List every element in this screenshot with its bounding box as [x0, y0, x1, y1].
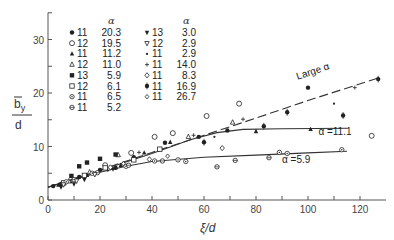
- marker-filled-square: [77, 164, 81, 168]
- legend-entry-label: 12: [77, 59, 89, 70]
- marker-filled-star: [341, 112, 345, 119]
- marker-filled-star: [285, 109, 289, 116]
- marker-small-dot: [107, 169, 109, 171]
- marker-filled-triangle: [168, 140, 172, 144]
- marker-filled-down-triangle: [145, 31, 149, 35]
- legend-entry-alpha: 8.3: [182, 70, 196, 81]
- marker-open-circle: [237, 101, 242, 106]
- legend-entry-alpha: 20.3: [102, 27, 122, 38]
- marker-plus: [145, 63, 149, 67]
- marker-filled-circle: [225, 128, 229, 132]
- marker-circle-bar: [267, 156, 271, 160]
- marker-open-square: [103, 166, 107, 170]
- marker-circle-bar: [160, 159, 164, 163]
- marker-filled-down-triangle: [72, 182, 76, 186]
- marker-open-circle: [129, 150, 134, 155]
- marker-open-down-triangle: [93, 173, 97, 177]
- marker-circle-bar: [70, 105, 74, 109]
- legend-entry-alpha: 11.2: [102, 48, 121, 59]
- marker-open-circle: [170, 131, 175, 136]
- legend-entry-alpha: 3.0: [182, 27, 196, 38]
- marker-plus: [241, 117, 245, 121]
- legend-alpha-header: α: [108, 15, 115, 26]
- marker-open-circle: [152, 134, 157, 139]
- legend-entry-label: 12: [152, 38, 164, 49]
- marker-circle-bar: [126, 163, 130, 167]
- marker-open-circle: [204, 114, 209, 119]
- x-tick-label: 20: [94, 204, 106, 215]
- chart: 0204060801001200102030 α1120.31219.51111…: [0, 0, 394, 240]
- marker-filled-square: [70, 73, 74, 77]
- y-tick-label: 30: [33, 35, 45, 46]
- marker-filled-circle: [77, 175, 81, 179]
- marker-filled-circle: [163, 141, 167, 145]
- legend-alpha-header: α: [183, 15, 190, 26]
- legend-entry-alpha: 5.9: [107, 70, 121, 81]
- marker-filled-square: [85, 160, 89, 164]
- legend-entry-label: 12: [77, 38, 89, 49]
- marker-open-square: [158, 147, 162, 151]
- annotation-large-: Large α: [295, 60, 331, 81]
- marker-small-dot: [70, 181, 72, 183]
- annotation--11-1: α =11.1: [318, 126, 352, 137]
- marker-filled-star: [376, 76, 380, 83]
- marker-circle-dot: [152, 159, 156, 163]
- marker-circle-dot: [176, 158, 180, 162]
- legend-entry-label: 12: [77, 81, 89, 92]
- legend-entry-alpha: 11.0: [102, 59, 121, 70]
- legend-entry-label: 11: [152, 70, 163, 81]
- marker-open-diamond-small: [166, 154, 170, 158]
- marker-open-down-triangle: [145, 42, 149, 46]
- marker-filled-circle: [306, 85, 310, 89]
- marker-open-triangle: [230, 120, 234, 124]
- marker-small-dot: [146, 53, 148, 55]
- legend-entry-alpha: 2.9: [182, 48, 196, 59]
- y-axis-title: by d: [12, 97, 32, 132]
- marker-filled-circle: [51, 184, 55, 188]
- marker-filled-star: [145, 83, 149, 90]
- marker-circle-dot: [184, 159, 188, 163]
- marker-small-dot: [333, 103, 335, 105]
- marker-plus: [353, 86, 357, 90]
- marker-open-circle: [369, 133, 374, 138]
- marker-open-square: [132, 158, 136, 162]
- marker-open-square: [82, 173, 86, 177]
- marker-filled-square: [98, 157, 102, 161]
- legend-entry-label: 11: [152, 59, 163, 70]
- legend-entry-alpha: 6.5: [107, 91, 121, 102]
- marker-open-square: [70, 84, 74, 88]
- x-tick-label: 80: [250, 204, 262, 215]
- marker-open-diamond: [145, 73, 149, 78]
- marker-filled-star: [202, 139, 206, 146]
- marker-circle-bar: [215, 165, 219, 169]
- legend-entry-label: 11: [77, 48, 88, 59]
- y-tick-label: 10: [33, 142, 45, 153]
- legend-entry-alpha: 19.5: [102, 38, 122, 49]
- legend-entry-label: 11: [77, 91, 88, 102]
- marker-small-dot: [213, 136, 215, 138]
- legend-entry-alpha: 16.9: [177, 81, 197, 92]
- marker-filled-circle: [70, 30, 74, 34]
- legend-entry-label: 11: [77, 27, 88, 38]
- y-tick-label: 20: [33, 88, 45, 99]
- y-tick-label: 0: [38, 195, 44, 206]
- marker-open-circle: [70, 41, 75, 46]
- annotation--5-9: α =5.9: [282, 154, 311, 165]
- legend-entry-label: 11: [152, 91, 163, 102]
- marker-open-diamond: [220, 146, 224, 151]
- x-tick-label: 40: [146, 204, 158, 215]
- marker-circle-dot: [277, 150, 281, 154]
- legend-entry-alpha: 2.9: [182, 38, 196, 49]
- x-tick-label: 100: [300, 204, 317, 215]
- legend-entry-alpha: 6.1: [107, 81, 121, 92]
- marker-filled-triangle: [70, 51, 74, 55]
- legend: α1120.31219.51111.21211.0135.9126.1116.5…: [70, 15, 197, 113]
- y-axis-label-numerator: by: [14, 97, 26, 113]
- legend-entry-label: 11: [77, 102, 88, 113]
- legend-entry-label: 13: [77, 70, 89, 81]
- legend-entry-alpha: 5.2: [107, 102, 121, 113]
- marker-open-triangle: [186, 134, 190, 138]
- legend-entry-alpha: 14.0: [177, 59, 197, 70]
- x-tick-label: 120: [352, 204, 369, 215]
- marker-circle-dot: [340, 148, 344, 152]
